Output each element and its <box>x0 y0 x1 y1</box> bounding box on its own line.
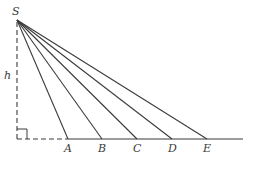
ray-d <box>17 20 172 139</box>
height-label: h <box>4 69 11 82</box>
point-label-e: E <box>202 142 211 155</box>
ray-e <box>17 20 207 139</box>
point-label-b: B <box>97 142 106 155</box>
point-label-d: D <box>167 142 177 155</box>
point-label-c: C <box>133 142 142 155</box>
ray-b <box>17 20 102 139</box>
source-label: S <box>12 5 20 18</box>
point-label-a: A <box>63 142 72 155</box>
ray-a <box>17 20 68 139</box>
right-angle-marker <box>17 129 27 139</box>
rays <box>17 20 207 139</box>
ray-c <box>17 20 137 139</box>
diagram-canvas: S h A B C D E <box>0 0 253 170</box>
